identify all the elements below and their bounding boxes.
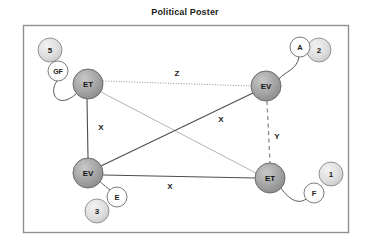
secondary-node-a[interactable]: A (290, 37, 310, 57)
secondary-node-gf[interactable]: GF (48, 61, 68, 81)
secondary-node-f[interactable]: F (304, 183, 324, 203)
secondary-node-a-label: A (297, 43, 303, 52)
secondary-node-e[interactable]: E (107, 187, 127, 207)
secondary-node-1[interactable]: 1 (319, 162, 343, 186)
main-node-ev-bottom-left[interactable]: EV (73, 158, 103, 188)
graph-canvas: Z X X Y X 5 GF 2 A 1 F (0, 0, 370, 248)
edge-label-y: Y (274, 132, 280, 141)
edge-label-x-left: X (98, 123, 104, 132)
main-node-et-top-left-label: ET (83, 80, 93, 89)
main-node-et-bottom-right-label: ET (265, 174, 275, 183)
secondary-node-f-label: F (312, 189, 317, 198)
secondary-node-1-label: 1 (329, 170, 334, 179)
secondary-node-e-label: E (114, 193, 119, 202)
secondary-node-gf-label: GF (53, 68, 63, 75)
political-poster-figure: Political Poster (0, 0, 370, 248)
secondary-node-3[interactable]: 3 (85, 199, 109, 223)
edge-label-z: Z (175, 69, 180, 78)
main-node-et-bottom-right[interactable]: ET (255, 163, 285, 193)
main-node-ev-bottom-left-label: EV (83, 169, 94, 178)
main-node-et-top-left[interactable]: ET (73, 69, 103, 99)
secondary-node-2-label: 2 (317, 46, 322, 55)
main-node-ev-top-right[interactable]: EV (251, 71, 281, 101)
edge-label-x-bottom: X (167, 182, 173, 191)
secondary-node-5[interactable]: 5 (38, 38, 62, 62)
secondary-node-5-label: 5 (48, 46, 53, 55)
main-node-ev-top-right-label: EV (261, 82, 272, 91)
edge-label-x-diagonal: X (218, 115, 224, 124)
secondary-node-2[interactable]: 2 (307, 38, 331, 62)
secondary-node-3-label: 3 (95, 207, 100, 216)
